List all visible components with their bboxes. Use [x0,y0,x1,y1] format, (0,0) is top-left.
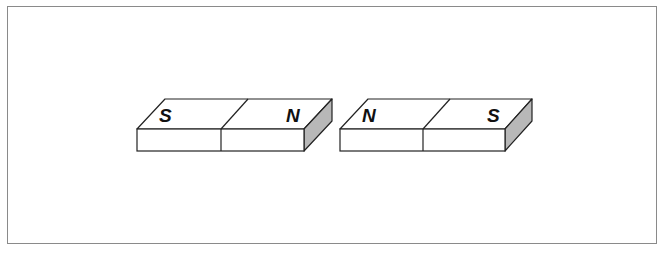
magnet-left-pole-right-label: N [286,105,301,126]
magnet-left-pole-left-label: S [159,105,172,126]
magnet-right-pole-right-label: S [487,105,500,126]
magnet-right-pole-left-label: N [362,105,377,126]
magnet-right: N S [340,99,532,151]
magnets-diagram: S N N S [0,0,664,253]
magnet-left: S N [137,99,332,151]
